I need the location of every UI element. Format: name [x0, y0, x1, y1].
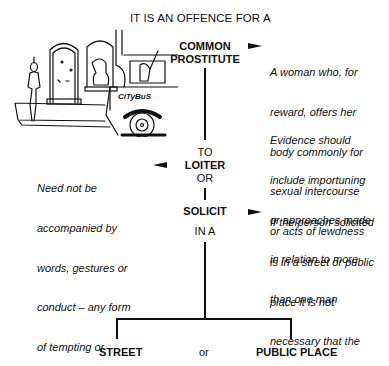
diagram-title: IT IS AN OFFENCE FOR A — [130, 12, 330, 24]
arrow-right-icon — [248, 209, 262, 215]
arrow-left-icon — [153, 162, 167, 168]
arrow-right-icon — [248, 43, 262, 49]
node-to: TO — [150, 146, 260, 159]
node-solicit: SOLICIT — [150, 205, 260, 218]
node-in-a: IN A — [150, 225, 260, 238]
connector-line-bottom — [204, 242, 206, 320]
bracket-horizontal — [116, 318, 292, 320]
node-common: COMMON — [150, 40, 260, 53]
bus-sign: CiTyBuS — [118, 92, 152, 101]
node-prostitute: PROSTITUTE — [150, 53, 260, 66]
node-or-bottom: or — [199, 346, 209, 358]
connector-line-top — [204, 68, 206, 140]
node-or: OR — [150, 172, 260, 185]
bracket-left-leg — [116, 318, 118, 339]
connector-line-mid — [204, 188, 206, 200]
note-solicit: If the person solicited is in a street o… — [270, 190, 374, 366]
node-common-prostitute: COMMON PROSTITUTE — [150, 40, 260, 66]
note-loiter: Need not be accompanied by words, gestur… — [37, 156, 139, 366]
bracket-right-leg — [290, 318, 292, 339]
node-public-place: PUBLIC PLACE — [256, 346, 337, 358]
node-street: STREET — [99, 346, 142, 358]
